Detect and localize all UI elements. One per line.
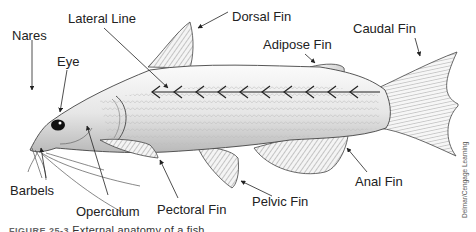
pelvic-fin bbox=[197, 145, 239, 188]
label-pectoral-fin: Pectoral Fin bbox=[157, 203, 226, 216]
figure-caption: FIGURE 25-3 External anatomy of a fish bbox=[9, 224, 205, 232]
fish-anatomy-diagram: Nares Eye Lateral Line Dorsal Fin Adipos… bbox=[0, 0, 476, 232]
label-barbels: Barbels bbox=[10, 184, 54, 197]
label-pelvic-fin: Pelvic Fin bbox=[252, 195, 308, 208]
barbels bbox=[28, 148, 140, 212]
label-nares: Nares bbox=[12, 29, 47, 42]
label-operculum: Operculum bbox=[76, 205, 140, 218]
eye bbox=[51, 120, 65, 131]
image-credit: Delmar/Cengage Learning bbox=[461, 142, 468, 218]
label-caudal-fin: Caudal Fin bbox=[353, 22, 416, 35]
dorsal-fin bbox=[148, 22, 193, 68]
caption-text: External anatomy of a fish bbox=[72, 224, 204, 232]
label-lateral-line: Lateral Line bbox=[68, 12, 136, 25]
label-adipose-fin: Adipose Fin bbox=[263, 38, 332, 51]
label-dorsal-fin: Dorsal Fin bbox=[232, 10, 291, 23]
figure-number: FIGURE 25-3 bbox=[9, 226, 69, 232]
label-anal-fin: Anal Fin bbox=[355, 175, 403, 188]
label-eye: Eye bbox=[57, 55, 79, 68]
